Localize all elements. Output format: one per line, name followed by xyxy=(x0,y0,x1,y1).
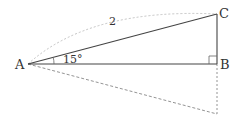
label-a: A xyxy=(14,57,25,72)
label-b: B xyxy=(220,57,230,72)
angle-label: 15° xyxy=(63,53,83,66)
angle-arc-a xyxy=(53,57,54,64)
right-angle-mark xyxy=(209,56,217,64)
side-ac xyxy=(28,14,217,64)
triangle-diagram: A B C 15° 2 xyxy=(0,0,241,123)
label-c: C xyxy=(219,6,229,21)
length-label: 2 xyxy=(109,15,116,28)
dashed-line-ad xyxy=(28,64,217,114)
